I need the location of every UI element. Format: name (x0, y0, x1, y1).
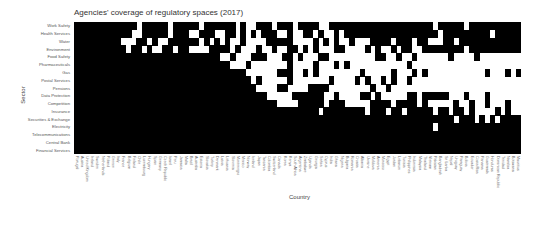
x-tick-label: Ireland (90, 156, 94, 167)
x-tick-label: Bolivia (464, 156, 468, 167)
x-tick-label: Armenia (376, 156, 380, 169)
x-tick-label: Austria (80, 156, 84, 167)
x-tick-label: Trinidad (501, 156, 505, 169)
y-tick-label: Pharmaceuticals (39, 62, 70, 67)
x-tick-label: Paraguay (459, 156, 463, 171)
heatmap-cell (422, 69, 428, 77)
x-tick-label: Spain (153, 156, 157, 165)
x-tick-label: Morocco (381, 156, 385, 170)
x-tick-label: Uruguay (454, 156, 458, 170)
heatmap-cell (448, 53, 454, 61)
x-tick-label: Slovakia (205, 156, 209, 170)
x-tick-label: Finland (132, 156, 136, 168)
x-tick-label: Czech Republic (163, 156, 167, 181)
x-tick-label: Slovenia (231, 156, 235, 170)
x-tick-label: Egypt (386, 156, 390, 165)
x-tick-label: Korea (283, 156, 287, 166)
x-tick-label: Uganda (308, 156, 312, 169)
y-tick-label: Food Safety (47, 54, 70, 59)
x-tick-label: Georgia (314, 156, 318, 169)
x-tick-label: Namibia (506, 156, 510, 169)
x-tick-label: Chile (137, 156, 141, 164)
x-tick-label: Vietnam (428, 156, 432, 169)
x-tick-label: Dominican Republic (496, 156, 500, 188)
x-tick-label: Sri Lanka (444, 156, 448, 171)
y-tick-label: Financial Services (36, 148, 70, 153)
heatmap-cell (459, 45, 465, 53)
y-tick-label: Data Protection (41, 93, 70, 98)
x-tick-label: Latvia (220, 156, 224, 166)
y-tick-label: Water (59, 39, 70, 44)
x-tick-label: Australia (194, 156, 198, 170)
x-tick-label: Japan (257, 156, 261, 166)
x-tick-label: Thailand (423, 156, 427, 170)
x-tick-label: Zimbabwe (303, 156, 307, 173)
x-tick-label: Honduras (490, 156, 494, 172)
y-tick-label: Health Services (41, 31, 70, 36)
heatmap-cell (298, 53, 304, 61)
heatmap-cell (251, 30, 257, 38)
heatmap-cell (131, 22, 137, 30)
y-tick-label: Environment (46, 47, 70, 52)
heatmap-cell (329, 76, 335, 84)
y-tick-label: Postal Services (41, 78, 70, 83)
x-axis-title: Country (289, 194, 310, 200)
x-tick-label: Luxembourg (142, 156, 146, 176)
x-tick-label: Malta (184, 156, 188, 165)
x-tick-label: Estonia (199, 156, 203, 168)
heatmap-cell (505, 69, 511, 77)
heatmap-cell (272, 45, 278, 53)
x-tick-label: Sweden (95, 156, 99, 169)
x-tick-label: Hungary (147, 156, 151, 170)
x-tick-label: Guatemala (485, 156, 489, 174)
heatmap-cell (516, 45, 522, 53)
heatmap-cell (303, 45, 309, 53)
x-tick-label: Montenegro (236, 156, 240, 175)
x-tick-label: Greece (111, 156, 115, 168)
heatmap-cell (412, 53, 418, 61)
heatmap-cell (381, 53, 387, 61)
x-tick-label: South Africa (293, 156, 297, 175)
heatmap-cell (261, 53, 267, 61)
x-tick-label: Brazil (189, 156, 193, 165)
x-tick-label: Bangladesh (438, 156, 442, 175)
heatmap-cell (474, 53, 480, 61)
x-tick-label: Romania (350, 156, 354, 170)
heatmap-cell (194, 38, 200, 46)
heatmap-cell (230, 53, 236, 61)
heatmap-cell (391, 76, 397, 84)
y-tick-label: Gas (62, 70, 70, 75)
heatmap-cell (386, 84, 392, 92)
x-tick-label: Serbia (319, 156, 323, 166)
x-axis-labels: PortugalAustriaUnited KingdomIrelandSwed… (74, 156, 521, 196)
heatmap-cell (412, 69, 418, 77)
x-tick-label: Jamaica (179, 156, 183, 169)
y-tick-label: Securities & Exchange (28, 117, 70, 122)
x-tick-label: Poland (106, 156, 110, 167)
heatmap-cell (323, 53, 329, 61)
x-tick-label: Ukraine (366, 156, 370, 168)
heatmap-cell (344, 61, 350, 69)
heatmap-cell (339, 45, 345, 53)
x-tick-label: Cyprus (324, 156, 328, 167)
heatmap-cell (334, 61, 340, 69)
x-tick-label: Germany (158, 156, 162, 171)
x-tick-label: Kenya (288, 156, 292, 166)
x-tick-label: Indonesia (412, 156, 416, 172)
x-tick-label: Costa Rica (475, 156, 479, 174)
x-tick-label: Moldova (371, 156, 375, 170)
x-tick-label: Botswana (511, 156, 515, 172)
y-tick-label: Work Safety (47, 23, 70, 28)
x-tick-label: Philippines (407, 156, 411, 173)
heatmap-cell (349, 38, 355, 46)
y-tick-label: Electricity (52, 124, 70, 129)
x-tick-label: Italy (116, 156, 120, 163)
x-tick-label: Denmark (215, 156, 219, 171)
heatmap-cell (443, 92, 449, 100)
x-tick-label: India (329, 156, 333, 164)
heatmap-cell (303, 69, 309, 77)
y-tick-label: Central Bank (46, 140, 70, 145)
x-tick-label: Nigeria (340, 156, 344, 167)
x-tick-label: Portugal (75, 156, 79, 169)
x-tick-label: Netherlands (101, 156, 105, 175)
